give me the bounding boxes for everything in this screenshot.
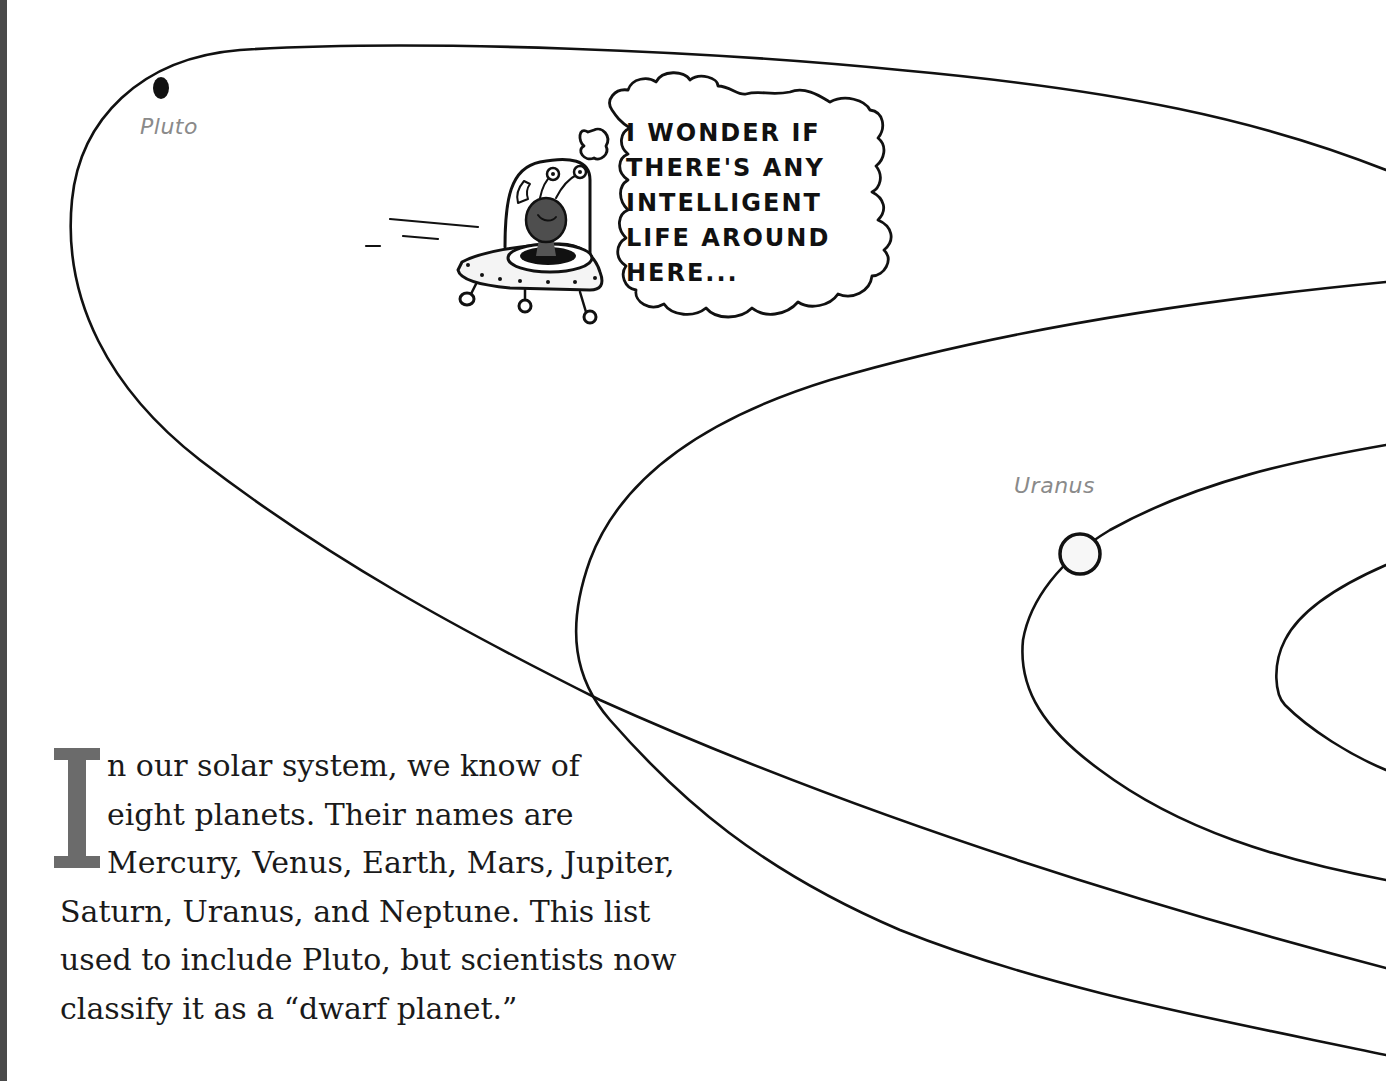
saturn-orbit	[1276, 565, 1386, 770]
speed-lines-icon	[366, 219, 478, 246]
paragraph-line: classify it as a “dwarf planet.”	[60, 985, 760, 1034]
paragraph-line: n our solar system, we know of	[60, 742, 760, 791]
thought-line: there's any	[626, 151, 896, 186]
ufo-alien-icon	[458, 159, 602, 323]
paragraph-line: Mercury, Venus, Earth, Mars, Jupiter,	[60, 839, 760, 888]
uranus-orbit	[1022, 445, 1386, 880]
thought-line: I wonder if	[626, 116, 896, 151]
thought-line: intelligent	[626, 186, 896, 221]
pluto-planet-icon	[153, 77, 169, 99]
uranus-planet-icon	[1060, 534, 1100, 574]
paragraph-line: used to include Pluto, but scientists no…	[60, 936, 760, 985]
uranus-label: Uranus	[1014, 473, 1095, 498]
paragraph-line: eight planets. Their names are	[60, 791, 760, 840]
pluto-label: Pluto	[140, 114, 198, 139]
thought-bubble-text: I wonder if there's any intelligent life…	[626, 116, 896, 291]
thought-line: here...	[626, 256, 896, 291]
paragraph-line: Saturn, Uranus, and Neptune. This list	[60, 888, 760, 937]
thought-line: life around	[626, 221, 896, 256]
body-paragraph: n our solar system, we know of eight pla…	[60, 742, 760, 1033]
